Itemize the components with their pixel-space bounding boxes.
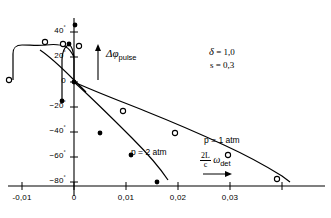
x-axis-omega: ωdet: [213, 154, 231, 165]
y-tick-label: 20°: [38, 52, 66, 60]
param-delta: δ = 1,0: [209, 47, 235, 58]
data-point-filled: [73, 23, 78, 28]
x-tick-label: 0,03: [210, 194, 250, 202]
x-tick-label: 0,01: [106, 194, 146, 202]
curve-label-p1: p = 1 atm: [204, 136, 240, 145]
data-point-filled: [72, 80, 77, 85]
y-tick-label: −20°: [32, 102, 66, 110]
y-tick-label: −80°: [32, 177, 66, 185]
data-point-open: [172, 130, 177, 135]
data-point-open: [274, 176, 279, 181]
y-axis-title-sub: pulse: [119, 53, 137, 62]
x-tick-label: -0,01: [2, 194, 42, 202]
data-point-open: [120, 108, 125, 113]
data-point-open: [76, 43, 81, 48]
curve-label-p2: p = 2 atm: [131, 148, 167, 157]
data-point-open: [60, 41, 65, 46]
y-tick-label: −60°: [32, 152, 66, 160]
y-tick-label: −40°: [32, 127, 66, 135]
chart-figure: 40° 20° 0 −20° −40° −60° −80° -0,01 0 0,…: [0, 0, 331, 218]
x-tick-label: 0,02: [158, 194, 198, 202]
data-point-filled: [155, 180, 160, 185]
x-axis-fraction: 2L c: [200, 152, 211, 170]
x-axis-arrow: [203, 171, 232, 177]
x-tick-label: 0: [59, 194, 89, 202]
x-axis-title: 2L c ωdet: [200, 152, 231, 170]
data-point-filled: [67, 42, 72, 47]
y-axis-title: Δφpulse: [106, 48, 136, 59]
curve-p2-main: [74, 82, 168, 180]
y-axis-arrow: [95, 44, 101, 80]
y-tick-label: 0: [38, 77, 66, 85]
s-value: = 0,3: [214, 60, 235, 70]
y-axis-title-main: Δφ: [106, 47, 119, 59]
param-s: s = 0,3: [210, 61, 234, 70]
data-point-filled: [98, 131, 103, 136]
curve-p1-main: [74, 82, 290, 182]
data-point-open: [6, 77, 11, 82]
x-axis-fraction-denominator: c: [200, 161, 211, 169]
delta-value: = 1,0: [214, 47, 235, 57]
y-tick-label: 40°: [38, 27, 66, 35]
data-point-open: [42, 39, 47, 44]
omega-subscript: det: [220, 159, 230, 168]
